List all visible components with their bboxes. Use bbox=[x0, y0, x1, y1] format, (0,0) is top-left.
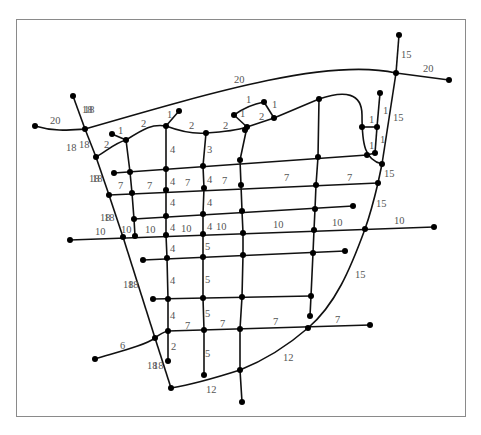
edge-weight-label: 2 bbox=[104, 139, 109, 150]
edge-weight-label: 2 bbox=[141, 118, 146, 129]
graph-node bbox=[203, 130, 209, 136]
graph-node bbox=[201, 372, 207, 378]
edge-weight-label: 15 bbox=[401, 49, 412, 60]
graph-node bbox=[239, 208, 245, 214]
edge-weight-label: 10 bbox=[145, 224, 156, 235]
edge-weight-label: 7 bbox=[147, 180, 152, 191]
edge-weight-label: 10 bbox=[273, 219, 284, 230]
edge-weight-label: 2 bbox=[189, 120, 194, 131]
graph-node bbox=[200, 231, 206, 237]
graph-node bbox=[237, 157, 243, 163]
graph-node bbox=[446, 77, 452, 83]
graph-node bbox=[240, 252, 246, 258]
graph-node bbox=[312, 206, 318, 212]
edge-weight-label: 18 bbox=[89, 173, 100, 184]
graph-edges bbox=[35, 35, 449, 402]
graph-node bbox=[307, 313, 313, 319]
edge-weight-label: 5 bbox=[205, 274, 210, 285]
edge-weight-label: 7 bbox=[220, 318, 225, 329]
edge-weight-label: 7 bbox=[347, 172, 352, 183]
edge-weight-label: 1 bbox=[380, 134, 385, 145]
edge-weight-label: 1 bbox=[369, 114, 374, 125]
edge-weight-label: 4 bbox=[170, 222, 176, 233]
graph-node bbox=[240, 230, 246, 236]
graph-node bbox=[350, 203, 356, 209]
graph-node bbox=[163, 166, 169, 172]
graph-node bbox=[165, 296, 171, 302]
graph-node bbox=[359, 124, 365, 130]
edge-weight-label: 10 bbox=[332, 217, 343, 228]
graph-node bbox=[163, 232, 169, 238]
graph-node bbox=[70, 93, 76, 99]
edge-weight-label: 7 bbox=[273, 316, 278, 327]
graph-node bbox=[92, 356, 98, 362]
edge-weight-label: 1 bbox=[118, 125, 123, 136]
graph-node bbox=[379, 161, 385, 167]
edge-weight-label: 15 bbox=[376, 198, 387, 209]
graph-edge bbox=[153, 296, 311, 299]
graph-edge bbox=[240, 328, 308, 370]
graph-node bbox=[164, 255, 170, 261]
edge-weight-label: 4 bbox=[170, 275, 176, 286]
edge-weight-label: 6 bbox=[120, 340, 125, 351]
graph-node bbox=[237, 367, 243, 373]
graph-node bbox=[242, 127, 248, 133]
graph-node bbox=[200, 163, 206, 169]
graph-edge bbox=[396, 35, 399, 73]
graph-edge bbox=[166, 126, 206, 133]
graph-node bbox=[310, 250, 316, 256]
graph-node bbox=[377, 90, 383, 96]
edge-weight-label: 20 bbox=[234, 74, 245, 85]
graph-node bbox=[165, 358, 171, 364]
graph-node bbox=[393, 70, 399, 76]
edge-weight-label: 10 bbox=[181, 223, 192, 234]
edge-weight-label: 7 bbox=[284, 172, 289, 183]
edge-weight-label: 1 bbox=[246, 94, 251, 105]
graph-node bbox=[82, 126, 88, 132]
graph-node bbox=[165, 328, 171, 334]
edge-weight-label: 1 bbox=[369, 140, 374, 151]
graph-edge bbox=[166, 126, 168, 361]
graph-node bbox=[311, 227, 317, 233]
graph-node bbox=[271, 115, 277, 121]
edge-weight-label: 4 bbox=[207, 221, 213, 232]
graph-edge bbox=[274, 99, 319, 118]
edge-weight-label: 2 bbox=[223, 120, 228, 131]
graph-node bbox=[106, 192, 112, 198]
graph-node bbox=[109, 131, 115, 137]
graph-edge bbox=[396, 73, 449, 80]
edge-weight-label: 1 bbox=[167, 109, 172, 120]
edge-weight-label: 18 bbox=[79, 139, 90, 150]
graph-node bbox=[150, 296, 156, 302]
edge-weight-label: 18 bbox=[82, 104, 93, 115]
graph-edge bbox=[240, 127, 247, 402]
edge-weight-label: 3 bbox=[207, 144, 212, 155]
edge-weight-label: 12 bbox=[283, 352, 294, 363]
graph-edge bbox=[35, 126, 85, 130]
graph-node bbox=[367, 322, 373, 328]
edge-weight-label: 10 bbox=[121, 224, 132, 235]
graph-node bbox=[200, 295, 206, 301]
edge-weight-label: 5 bbox=[205, 308, 210, 319]
edge-weight-label: 12 bbox=[206, 384, 217, 395]
graph-edge bbox=[95, 325, 370, 359]
edge-weight-label: 5 bbox=[205, 241, 210, 252]
edge-weight-label: 4 bbox=[170, 176, 176, 187]
graph-node bbox=[163, 187, 169, 193]
graph-edge bbox=[96, 140, 126, 157]
graph-node bbox=[131, 216, 137, 222]
graph-node bbox=[132, 233, 138, 239]
graph-node bbox=[231, 112, 237, 118]
edge-weight-label: 18 bbox=[100, 212, 111, 223]
edge-weight-label: 4 bbox=[207, 197, 213, 208]
graph-edge bbox=[203, 133, 206, 375]
graph-node bbox=[431, 224, 437, 230]
edge-weight-label: 20 bbox=[50, 115, 61, 126]
edge-weight-label: 7 bbox=[335, 314, 340, 325]
edge-weight-label: 1 bbox=[240, 108, 245, 119]
edge-weight-label: 1 bbox=[383, 105, 388, 116]
edge-weight-label: 18 bbox=[123, 279, 134, 290]
edge-weight-label: 4 bbox=[170, 243, 176, 254]
edge-weight-label: 7 bbox=[185, 177, 190, 188]
edge-weight-label: 2 bbox=[259, 111, 264, 122]
